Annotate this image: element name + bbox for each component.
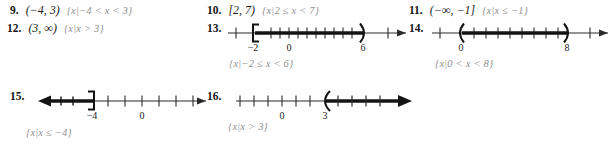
problem-14-label-left: 0 — [459, 42, 464, 53]
problem-14-setbuilder: {x|0 < x < 8} — [435, 58, 493, 69]
problem-13-setbuilder: {x|−2 ≤ x < 6} — [229, 58, 293, 69]
problem-16-setbuilder: {x|x > 3} — [228, 121, 268, 132]
problem-13-label-left: −2 — [248, 42, 259, 53]
problem-13-number: 13. — [207, 22, 221, 34]
problem-10: 10. [2, 7) {x|2 ≤ x < 7} — [207, 3, 319, 18]
problem-11: 11. (−∞, −1] {x|x ≤ −1} — [409, 3, 528, 18]
problem-12-number: 12. — [7, 22, 21, 34]
problem-9-number: 9. — [10, 4, 19, 16]
problem-15-label-left: −4 — [87, 110, 98, 121]
problem-9: 9. (−4, 3) {x|−4 < x < 3} — [10, 3, 132, 18]
problem-9-setbuilder: {x|−4 < x < 3} — [67, 5, 133, 16]
problem-13-numberline: −2 0 6 — [228, 19, 408, 55]
problem-11-number: 11. — [409, 4, 423, 16]
problem-10-interval: [2, 7) — [228, 3, 255, 18]
problem-12-setbuilder: {x|x > 3} — [64, 23, 104, 34]
problem-14-label-right: 8 — [565, 42, 570, 53]
problem-16-numberline: 0 3 — [232, 87, 412, 123]
problem-14-numberline: 0 8 — [432, 19, 610, 55]
problem-10-setbuilder: {x|2 ≤ x < 7} — [262, 5, 319, 16]
problem-14-number: 14. — [409, 22, 423, 34]
problem-16-number: 16. — [207, 90, 221, 102]
problem-13-label-right: 6 — [361, 42, 366, 53]
answer-key-page: 9. (−4, 3) {x|−4 < x < 3} 12. (3, ∞) {x|… — [0, 0, 613, 148]
problem-11-setbuilder: {x|x ≤ −1} — [482, 5, 528, 16]
problem-16-label-left: 3 — [323, 110, 328, 121]
problem-12: 12. (3, ∞) {x|x > 3} — [7, 21, 104, 36]
problem-16-label-zero: 0 — [280, 110, 285, 121]
problem-15-setbuilder: {x|x ≤ −4} — [26, 127, 72, 138]
problem-10-number: 10. — [207, 4, 221, 16]
problem-15-number: 15. — [10, 90, 24, 102]
problem-9-interval: (−4, 3) — [26, 3, 60, 18]
problem-13-label-zero: 0 — [287, 42, 292, 53]
problem-15-numberline: −4 0 — [36, 87, 208, 123]
problem-15-label-zero: 0 — [140, 110, 145, 121]
problem-12-interval: (3, ∞) — [28, 21, 57, 36]
problem-11-interval: (−∞, −1] — [430, 3, 475, 18]
